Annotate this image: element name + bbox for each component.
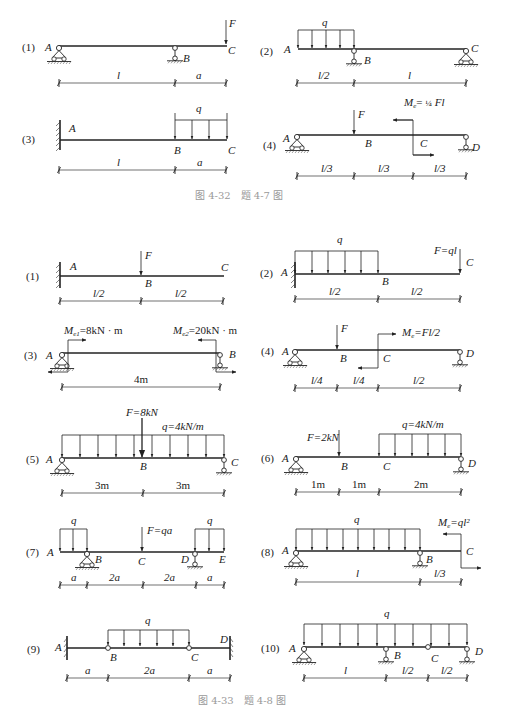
- svg-text:(9): (9): [27, 643, 40, 656]
- beam-problems-figure: (1) A B F C l a (2) A q B C l/2 l (3): [0, 0, 506, 723]
- svg-text:C: C: [466, 256, 474, 268]
- svg-text:a: a: [207, 571, 213, 583]
- svg-text:C: C: [420, 137, 428, 149]
- svg-text:(2): (2): [260, 267, 273, 280]
- svg-text:A: A: [68, 122, 76, 134]
- svg-text:a: a: [85, 664, 91, 676]
- svg-text:E: E: [218, 553, 226, 565]
- svg-text:q: q: [71, 514, 77, 526]
- svg-text:Me2=20kN · m: Me2=20kN · m: [172, 324, 238, 338]
- svg-text:(8): (8): [261, 546, 274, 559]
- svg-text:A: A: [46, 546, 54, 558]
- svg-text:(2): (2): [260, 45, 273, 58]
- svg-text:l/2: l/2: [318, 69, 330, 81]
- svg-text:l/2: l/2: [411, 285, 423, 297]
- svg-text:B: B: [394, 649, 401, 661]
- svg-text:B: B: [340, 352, 347, 364]
- svg-text:(7): (7): [26, 546, 39, 559]
- svg-text:F: F: [357, 108, 365, 120]
- svg-text:l: l: [117, 156, 120, 168]
- svg-text:l/2: l/2: [329, 285, 341, 297]
- svg-text:l/2: l/2: [441, 664, 453, 676]
- svg-text:a: a: [71, 571, 77, 583]
- svg-text:B: B: [110, 651, 117, 663]
- svg-text:A: A: [281, 544, 289, 556]
- svg-text:l/2: l/2: [402, 664, 414, 676]
- roller-support-icon: [187, 552, 203, 570]
- svg-text:A: A: [69, 260, 77, 272]
- svg-text:Me=ql²: Me=ql²: [437, 516, 470, 530]
- svg-text:D: D: [467, 457, 476, 469]
- svg-text:B: B: [365, 137, 372, 149]
- svg-text:F: F: [340, 322, 348, 334]
- svg-text:C: C: [471, 42, 479, 54]
- roller-support-icon: [459, 647, 475, 665]
- roller-support-icon: [346, 49, 362, 67]
- problem-4-33-9: (9) A D B C q a 2a a: [27, 614, 233, 682]
- svg-text:q: q: [322, 16, 328, 28]
- problem-4-33-7: (7) A q B F=qa C q D E a 2a 2a a: [26, 514, 226, 589]
- roller-support-icon: [167, 46, 183, 64]
- svg-text:A: A: [45, 349, 53, 361]
- svg-text:3m: 3m: [95, 479, 110, 491]
- problem-4-33-3: (3) A B Me1=8kN · m Me2=20kN · m 4m: [24, 324, 238, 391]
- roller-support-icon: [453, 457, 469, 475]
- svg-text:(4): (4): [263, 139, 276, 152]
- svg-text:q=4kN/m: q=4kN/m: [402, 418, 444, 430]
- hinge-icon: [106, 646, 111, 651]
- svg-text:B: B: [183, 52, 190, 64]
- svg-text:D: D: [471, 141, 480, 153]
- pin-support-icon: [50, 352, 74, 371]
- svg-text:C: C: [431, 652, 439, 664]
- svg-text:F=ql: F=ql: [433, 244, 457, 256]
- svg-text:(3): (3): [22, 133, 35, 146]
- svg-text:l/3: l/3: [378, 162, 390, 174]
- svg-text:D: D: [219, 633, 228, 645]
- svg-text:C: C: [383, 460, 391, 472]
- svg-text:C: C: [221, 261, 229, 273]
- svg-text:l/2: l/2: [93, 287, 105, 299]
- roller-support-icon: [216, 458, 232, 476]
- svg-text:2a: 2a: [164, 571, 176, 583]
- svg-text:D: D: [474, 645, 483, 657]
- problem-4-33-5: (5) A C F=8kN q=4kN/m B 3m 3m: [26, 406, 239, 497]
- svg-text:B: B: [95, 553, 102, 565]
- svg-text:C: C: [228, 144, 236, 156]
- hinge-icon: [426, 645, 431, 650]
- svg-text:D: D: [180, 553, 189, 565]
- svg-text:F: F: [144, 249, 152, 261]
- svg-text:(6): (6): [261, 452, 274, 465]
- svg-text:4m: 4m: [134, 373, 149, 385]
- svg-text:a: a: [207, 664, 213, 676]
- svg-text:l: l: [117, 69, 120, 81]
- svg-text:F=8kN: F=8kN: [125, 406, 159, 418]
- problem-4-33-4: (4) A D F B C Me=Fl/2 l/4 l/4 l/2: [261, 322, 474, 392]
- figure-caption: 图 4-33 题 4-8 图: [198, 695, 286, 706]
- svg-text:l: l: [344, 664, 347, 676]
- svg-text:F: F: [228, 17, 236, 29]
- svg-text:q=4kN/m: q=4kN/m: [162, 420, 204, 432]
- svg-text:B: B: [426, 553, 433, 565]
- svg-text:A: A: [280, 266, 288, 278]
- svg-text:A: A: [282, 132, 290, 144]
- svg-text:B: B: [229, 348, 236, 360]
- svg-text:3m: 3m: [176, 479, 191, 491]
- problem-4-32-1: (1) A B F C l a: [22, 17, 236, 87]
- svg-text:l/4: l/4: [353, 374, 365, 386]
- svg-text:C: C: [231, 456, 239, 468]
- svg-text:q: q: [354, 513, 360, 525]
- svg-text:1m: 1m: [311, 478, 326, 490]
- svg-text:F=2kN: F=2kN: [306, 431, 340, 443]
- svg-text:A: A: [288, 642, 296, 654]
- moment-label: Me= ¼ Fl: [403, 96, 445, 110]
- svg-text:A: A: [44, 41, 52, 53]
- svg-text:A: A: [281, 345, 289, 357]
- roller-support-icon: [378, 647, 394, 665]
- problem-4-32-4: (4) A D F B C Me= ¼ Fl l/3 l/3 l/3: [263, 96, 480, 180]
- figure-caption: 图 4-32 题 4-7 图: [195, 190, 283, 201]
- problem-4-32-2: (2) A q B C l/2 l: [260, 16, 479, 87]
- problem-4-33-8: (8) A B q C Me=ql² l l/3: [261, 513, 481, 586]
- problem-4-33-10: (10) A B C D q l l/2 l/2: [261, 607, 483, 682]
- svg-text:(10): (10): [261, 642, 280, 655]
- hinge-icon: [187, 646, 192, 651]
